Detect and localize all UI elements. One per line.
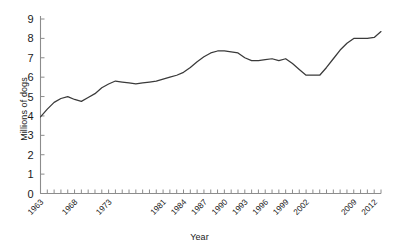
x-tick-label: 1999 <box>271 197 291 217</box>
y-tick-label: 7 <box>27 52 33 64</box>
y-tick-label: 9 <box>27 13 33 25</box>
x-tick-label: 1973 <box>94 197 114 217</box>
x-tick-label: 1987 <box>190 197 210 217</box>
x-tick-label: 1981 <box>149 197 169 217</box>
plot-area: 0123456789 19631968197319811984198719901… <box>0 0 399 251</box>
x-tick-label: 1984 <box>169 197 189 217</box>
x-tick-label: 1968 <box>60 197 80 217</box>
x-tick-label: 1963 <box>26 197 46 217</box>
x-tick-label: 1993 <box>230 197 250 217</box>
y-tick-label: 3 <box>27 129 33 141</box>
y-tick-label: 5 <box>27 91 33 103</box>
dog-population-line-chart: Millions of dogs Year 0123456789 1963196… <box>0 0 399 251</box>
y-tick-label: 6 <box>27 71 33 83</box>
x-axis-tick-labels: 1963196819731981198419871990199319961999… <box>26 197 379 217</box>
x-axis-tick-marks <box>41 190 382 194</box>
x-tick-label: 1996 <box>251 197 271 217</box>
x-tick-label: 1990 <box>210 197 230 217</box>
x-tick-label: 2002 <box>292 197 312 217</box>
x-tick-label: 2009 <box>339 197 359 217</box>
data-series-line <box>41 32 382 117</box>
y-axis-tick-marks <box>41 19 45 194</box>
x-tick-label: 2012 <box>360 197 380 217</box>
y-tick-label: 8 <box>27 32 33 44</box>
y-tick-label: 1 <box>27 168 33 180</box>
y-tick-label: 0 <box>27 188 33 200</box>
y-tick-label: 4 <box>27 110 33 122</box>
y-tick-label: 2 <box>27 149 33 161</box>
y-axis-tick-labels: 0123456789 <box>27 13 33 200</box>
